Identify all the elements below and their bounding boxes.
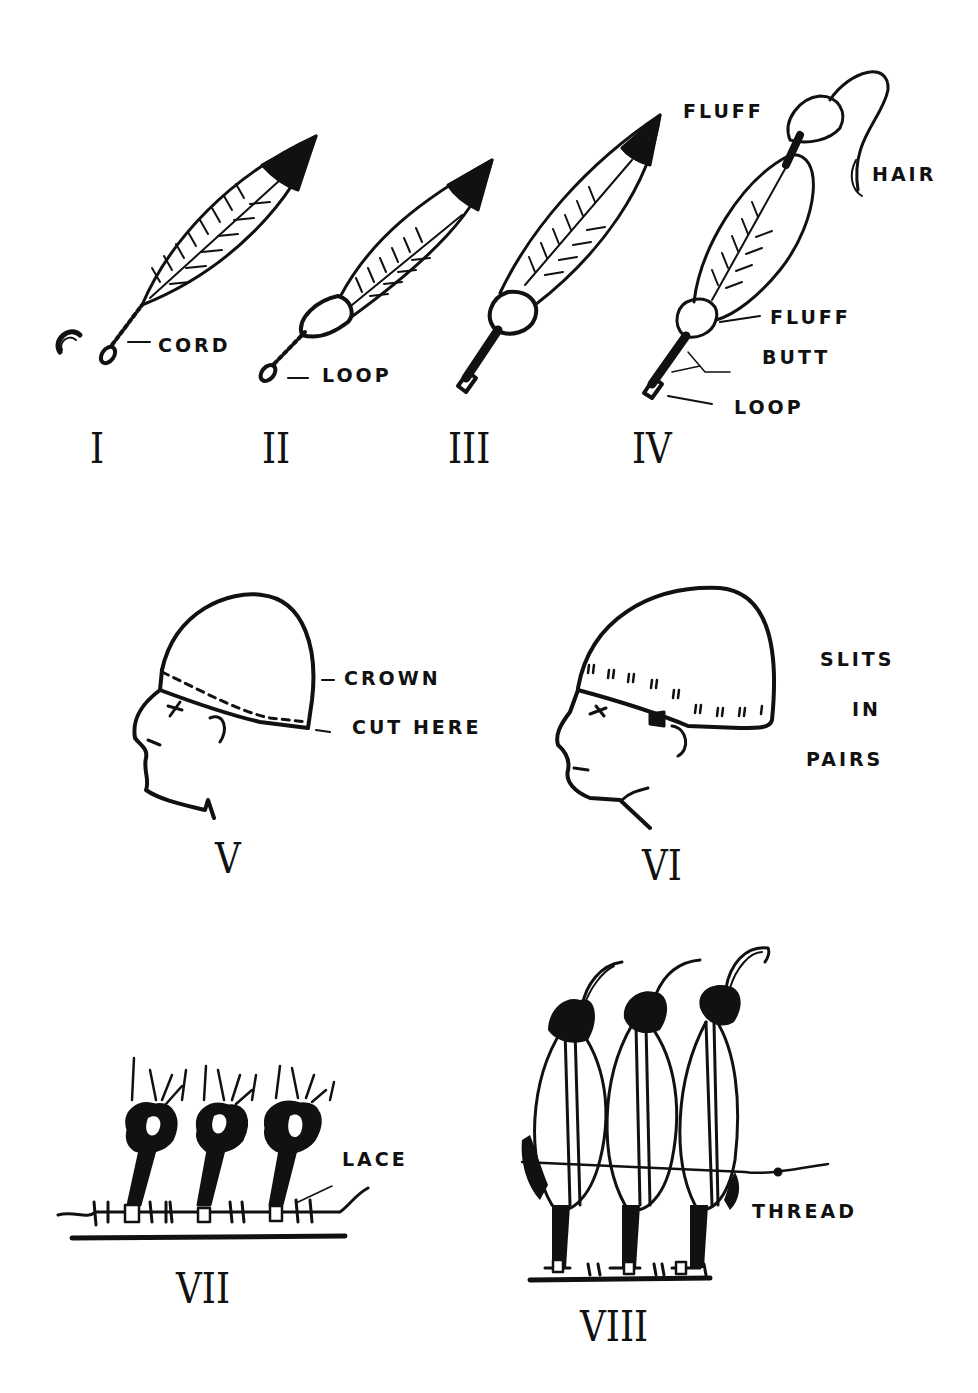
figure-numeral-1: I bbox=[90, 428, 104, 470]
figure-numeral-8: VIII bbox=[580, 1306, 648, 1348]
label-hair: HAIR bbox=[872, 165, 936, 184]
label-lace: LACE bbox=[342, 1150, 408, 1169]
label-thread: THREAD bbox=[752, 1202, 857, 1221]
label-loop-fig2: LOOP bbox=[322, 366, 392, 385]
label-crown: CROWN bbox=[344, 669, 441, 688]
label-loop-fig4: LOOP bbox=[734, 398, 804, 417]
feather-figure-1-icon bbox=[58, 136, 316, 366]
line-art bbox=[0, 0, 978, 1393]
head-cap-figure-6-icon bbox=[557, 588, 774, 828]
label-pairs: PAIRS bbox=[806, 750, 883, 769]
feather-figure-3-icon bbox=[458, 115, 660, 392]
figure-numeral-2: II bbox=[262, 428, 290, 470]
figure-numeral-7: VII bbox=[176, 1268, 230, 1310]
label-slits: SLITS bbox=[820, 650, 895, 669]
label-fluff-top: FLUFF bbox=[683, 102, 764, 121]
label-fluff-bottom: FLUFF bbox=[770, 308, 851, 327]
label-in: IN bbox=[852, 700, 881, 719]
diagram-canvas: I II III IV V VI VII VIII CORD LOOP FLUF… bbox=[0, 0, 978, 1393]
figure-numeral-4: IV bbox=[632, 428, 672, 470]
thread-figure-8-icon bbox=[522, 948, 828, 1280]
feather-figure-2-icon bbox=[258, 160, 492, 384]
label-cord: CORD bbox=[158, 336, 231, 355]
figure-numeral-5: V bbox=[215, 838, 241, 880]
figure-numeral-3: III bbox=[448, 428, 490, 470]
label-cut-here: CUT HERE bbox=[352, 718, 481, 737]
lace-figure-7-icon bbox=[58, 1058, 368, 1238]
figure-numeral-6: VI bbox=[642, 845, 682, 887]
head-cap-figure-5-icon bbox=[134, 594, 334, 818]
label-butt: BUTT bbox=[762, 348, 830, 367]
